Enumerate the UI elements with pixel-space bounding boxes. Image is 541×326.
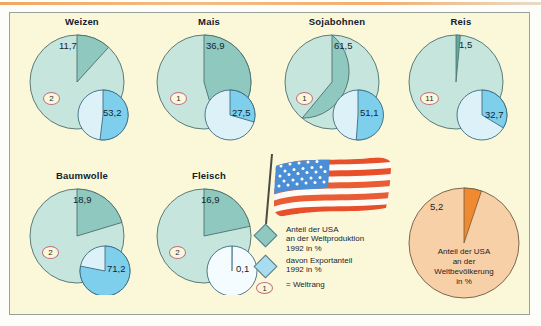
chart-title-weizen: Weizen [21, 16, 143, 27]
chart-title-fleisch: Fleisch [148, 170, 270, 181]
chart-title-mais: Mais [148, 16, 270, 27]
legend-row-rank: 1 = Weltrang [253, 279, 378, 293]
value-sojabohnen-export: 51,1 [360, 107, 379, 118]
legend-swatch-production-icon [253, 223, 277, 247]
legend-label-export: davon Exportanteil 1992 in % [286, 256, 352, 275]
chart-title-baumwolle: Baumwolle [21, 170, 143, 181]
legend-row-export: davon Exportanteil 1992 in % [253, 257, 378, 278]
chart-reis: Reis 1,5 11 32,7 [400, 16, 522, 146]
legend: Anteil der USA an der Weltproduktion 199… [253, 226, 378, 294]
rank-badge-weizen: 2 [43, 92, 60, 105]
value-sojabohnen-production: 61,5 [334, 40, 353, 51]
rank-badge-reis: 11 [420, 92, 439, 105]
rank-badge-mais: 1 [170, 92, 187, 105]
rank-badge-sojabohnen: 1 [296, 92, 313, 105]
top-accent-rule [0, 2, 541, 5]
rank-badge-baumwolle: 2 [42, 246, 59, 259]
chart-weizen: Weizen 11,7 2 53,2 [21, 16, 143, 146]
chart-weltbevoelkerung: 5,2 Anteil der USA an der Weltbevölkerun… [404, 185, 524, 303]
legend-label-production: Anteil der USA an der Weltproduktion 199… [286, 225, 364, 253]
usa-flag [258, 152, 393, 224]
value-baumwolle-export: 71,2 [107, 263, 126, 274]
value-population: 5,2 [430, 201, 443, 212]
value-reis-production: 1,5 [459, 39, 472, 50]
value-fleisch-production: 16,9 [201, 194, 220, 205]
value-weizen-export: 53,2 [103, 107, 122, 118]
chart-mais: Mais 36,9 1 27,5 [148, 16, 270, 146]
chart-sojabohnen: Sojabohnen 61,5 1 51,1 [276, 16, 398, 146]
legend-row-production: Anteil der USA an der Weltproduktion 199… [253, 226, 378, 256]
chart-fleisch: Fleisch 16,9 2 0,1 [148, 170, 270, 300]
value-mais-export: 27,5 [232, 107, 251, 118]
chart-title-reis: Reis [400, 16, 522, 27]
value-reis-export: 32,7 [485, 109, 504, 120]
rank-badge-fleisch: 2 [169, 246, 186, 259]
legend-rank-badge: 1 [256, 282, 273, 294]
label-population: Anteil der USA an der Weltbevölkerung in… [404, 247, 524, 287]
value-baumwolle-production: 18,9 [73, 194, 92, 205]
value-weizen-production: 11,7 [59, 40, 77, 51]
value-mais-production: 36,9 [206, 40, 225, 51]
chart-title-sojabohnen: Sojabohnen [276, 16, 398, 27]
chart-baumwolle: Baumwolle 18,9 2 71,2 [21, 170, 143, 300]
pie-weizen-production [25, 29, 135, 141]
infographic-page: Weizen 11,7 2 53,2 Mais [0, 0, 541, 326]
legend-swatch-export-icon [253, 254, 277, 278]
legend-label-rank: = Weltrang [286, 280, 325, 289]
value-fleisch-export: 0,1 [236, 263, 249, 274]
